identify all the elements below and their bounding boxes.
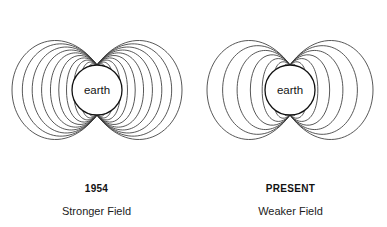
era-label-1954: 1954 xyxy=(0,182,193,195)
caption-1954: 1954 Stronger Field xyxy=(0,182,193,218)
field-diagram-1954-svg: earth xyxy=(0,0,193,180)
magnetic-field-comparison-figure: earth 1954 Stronger Field earth PRESENT … xyxy=(0,0,387,227)
earth-label: earth xyxy=(277,84,303,96)
panel-1954: earth 1954 Stronger Field xyxy=(0,0,193,227)
strength-label-present: Weaker Field xyxy=(194,204,387,218)
strength-label-1954: Stronger Field xyxy=(0,204,193,218)
caption-present: PRESENT Weaker Field xyxy=(194,182,387,218)
earth-label: earth xyxy=(84,84,110,96)
panel-present: earth PRESENT Weaker Field xyxy=(194,0,387,227)
field-diagram-present: earth xyxy=(194,0,387,180)
field-diagram-present-svg: earth xyxy=(194,0,387,180)
era-label-present: PRESENT xyxy=(194,182,387,195)
field-diagram-1954: earth xyxy=(0,0,193,180)
